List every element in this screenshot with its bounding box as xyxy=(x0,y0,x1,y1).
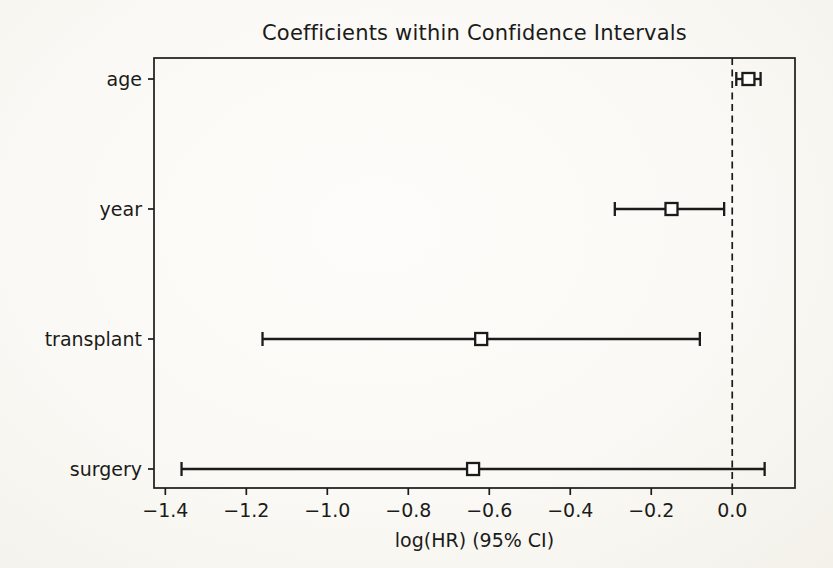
x-tick-label-0: −1.4 xyxy=(142,499,188,521)
coef-marker-age xyxy=(742,73,754,85)
x-tick-label-3: −0.8 xyxy=(385,499,431,521)
y-tick-label-year: year xyxy=(100,198,143,220)
coef-marker-transplant xyxy=(475,333,487,345)
plot-border xyxy=(154,58,795,488)
x-tick-label-4: −0.6 xyxy=(466,499,512,521)
x-tick-label-1: −1.2 xyxy=(223,499,269,521)
x-tick-label-7: 0.0 xyxy=(717,499,747,521)
y-tick-label-surgery: surgery xyxy=(70,458,142,480)
chart-title: Coefficients within Confidence Intervals xyxy=(154,20,795,46)
x-tick-label-2: −1.0 xyxy=(304,499,350,521)
y-tick-label-age: age xyxy=(107,68,142,90)
y-tick-label-transplant: transplant xyxy=(45,328,142,350)
coef-marker-year xyxy=(665,203,677,215)
coef-marker-surgery xyxy=(467,463,479,475)
x-axis-label: log(HR) (95% CI) xyxy=(154,529,795,551)
x-tick-label-5: −0.4 xyxy=(547,499,593,521)
forest-plot-svg: −1.4−1.2−1.0−0.8−0.6−0.4−0.20.0ageyeartr… xyxy=(0,0,833,568)
figure-canvas: Coefficients within Confidence Intervals… xyxy=(0,0,833,568)
x-tick-label-6: −0.2 xyxy=(628,499,674,521)
